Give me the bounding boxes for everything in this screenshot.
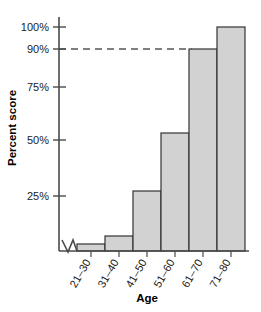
y-tick-label-75: 75% <box>27 81 49 93</box>
y-tick-label-90: 90% <box>27 43 49 55</box>
bar-chart-figure: 100% 90% 75% 50% 25% 21–30 31–40 41–50 5… <box>0 0 261 312</box>
y-axis-title: Percent score <box>6 90 18 166</box>
bar-31-40 <box>105 236 133 251</box>
y-tick-label-100: 100% <box>21 21 49 33</box>
y-tick-label-25: 25% <box>27 190 49 202</box>
bar-51-60 <box>161 133 189 251</box>
bar-71-80 <box>217 27 245 251</box>
chart-canvas: 100% 90% 75% 50% 25% 21–30 31–40 41–50 5… <box>0 0 261 312</box>
bar-61-70 <box>189 49 217 251</box>
x-axis-title: Age <box>136 292 158 304</box>
bar-41-50 <box>133 191 161 251</box>
bar-21-30 <box>77 244 105 251</box>
y-tick-label-50: 50% <box>27 134 49 146</box>
